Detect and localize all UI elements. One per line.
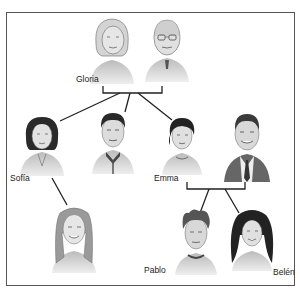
label-gloria: Gloria bbox=[76, 74, 99, 84]
portrait-son bbox=[90, 110, 136, 174]
portrait-belen bbox=[228, 207, 276, 271]
label-emma: Emma bbox=[154, 173, 179, 183]
label-belen: Belén bbox=[273, 267, 295, 277]
portrait-emma-husband bbox=[222, 110, 272, 182]
portrait-emma bbox=[160, 115, 204, 175]
portrait-pablo bbox=[173, 207, 219, 275]
portrait-sofia bbox=[18, 114, 66, 176]
label-pablo: Pablo bbox=[144, 265, 166, 275]
portrait-grandfather bbox=[143, 14, 191, 82]
grandparents-bracket bbox=[103, 86, 162, 93]
emma-couple-bracket bbox=[187, 182, 245, 189]
label-sofia: Sofía bbox=[10, 173, 30, 183]
portrait-sofia-daughter bbox=[50, 203, 98, 273]
line-sofia-to-daughter bbox=[52, 178, 67, 205]
